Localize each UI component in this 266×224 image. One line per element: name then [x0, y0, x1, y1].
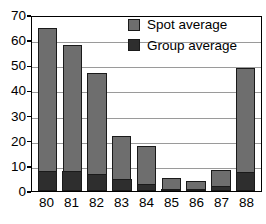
bar-segment-group-average[interactable]: [161, 189, 181, 192]
bar-segment-spot-average[interactable]: [186, 181, 205, 191]
bar-segment-spot-average[interactable]: [162, 178, 181, 191]
y-axis-tick-label: 0: [0, 185, 26, 199]
bar-82[interactable]: [87, 73, 106, 191]
legend-swatch-icon: [128, 39, 140, 51]
y-axis-tick-label: 60: [0, 34, 26, 48]
x-axis-tick-label: 82: [84, 196, 109, 210]
x-axis-tick-label: 83: [109, 196, 134, 210]
x-axis-tick-label: 87: [209, 196, 234, 210]
y-axis-tick-label: 20: [0, 135, 26, 149]
x-axis: 808182838485868788: [31, 196, 262, 210]
y-axis-tick-label: 30: [0, 110, 26, 124]
bar-slot: [85, 17, 110, 191]
legend-item[interactable]: Spot average: [128, 18, 237, 32]
x-axis-tick-label: 84: [134, 196, 159, 210]
legend-swatch-icon: [128, 19, 140, 31]
bar-segment-group-average[interactable]: [186, 189, 206, 192]
x-axis-tick-label: 80: [34, 196, 59, 210]
bar-83[interactable]: [112, 136, 131, 191]
bar-85[interactable]: [162, 178, 181, 191]
bar-slot: [60, 17, 85, 191]
bar-87[interactable]: [211, 170, 230, 191]
x-axis-tick-label: 86: [184, 196, 209, 210]
y-axis-tick-label: 40: [0, 84, 26, 98]
bar-segment-group-average[interactable]: [137, 184, 157, 192]
bar-86[interactable]: [186, 181, 205, 191]
x-axis-tick-label: 88: [234, 196, 259, 210]
bar-segment-spot-average[interactable]: [38, 28, 57, 191]
y-axis-tick-label: 10: [0, 160, 26, 174]
bar-segment-spot-average[interactable]: [211, 170, 230, 191]
bar-segment-group-average[interactable]: [236, 172, 256, 191]
x-axis-tick-label: 81: [59, 196, 84, 210]
chart-legend: Spot averageGroup average: [128, 18, 237, 52]
bar-segment-spot-average[interactable]: [236, 68, 255, 191]
bar-segment-spot-average[interactable]: [112, 136, 131, 191]
legend-item[interactable]: Group average: [128, 39, 237, 53]
bar-84[interactable]: [137, 146, 156, 191]
x-axis-tick-label: 85: [159, 196, 184, 210]
bar-segment-spot-average[interactable]: [137, 146, 156, 191]
bar-segment-group-average[interactable]: [38, 171, 58, 191]
bar-segment-group-average[interactable]: [112, 179, 132, 192]
bar-segment-group-average[interactable]: [87, 174, 107, 192]
bar-81[interactable]: [63, 45, 82, 191]
bar-segment-group-average[interactable]: [62, 171, 82, 191]
legend-item-label: Group average: [147, 39, 237, 53]
bar-80[interactable]: [38, 28, 57, 191]
legend-item-label: Spot average: [147, 18, 227, 32]
bar-segment-spot-average[interactable]: [63, 45, 82, 191]
y-axis-tick-label: 50: [0, 59, 26, 73]
bar-segment-group-average[interactable]: [211, 186, 231, 191]
bar-88[interactable]: [236, 68, 255, 191]
bar-slot: [35, 17, 60, 191]
y-axis-tick-label: 70: [0, 9, 26, 23]
bar-segment-spot-average[interactable]: [87, 73, 106, 191]
bar-chart: 010203040506070 808182838485868788 Spot …: [0, 0, 266, 224]
